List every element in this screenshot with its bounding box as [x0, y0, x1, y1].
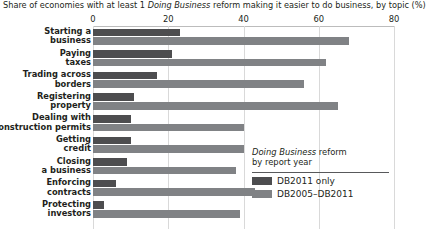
- bar-db2011-only: [93, 201, 104, 209]
- legend-title-line2: by report year: [252, 157, 312, 167]
- bar-db2011-only: [93, 158, 127, 166]
- bar-row: Dealing with construction permits: [0, 113, 418, 135]
- bar-db2011-only: [93, 137, 131, 145]
- bar-db2005-db2011: [93, 210, 240, 218]
- bar-db2005-db2011: [93, 145, 244, 153]
- legend-item: DB2011 only: [252, 176, 412, 187]
- bar-db2005-db2011: [93, 124, 244, 132]
- legend-swatch: [252, 177, 272, 185]
- bar-db2011-only: [93, 29, 180, 37]
- bar-db2005-db2011: [93, 59, 326, 67]
- category-label: Dealing with construction permits: [0, 113, 91, 132]
- chart-subtitle-before: Share of economies with at least 1: [3, 0, 148, 10]
- category-label: Starting a business: [0, 27, 91, 46]
- x-tick-label-20: 20: [163, 14, 174, 24]
- legend-items: DB2011 onlyDB2005–DB2011: [252, 176, 412, 200]
- bar-row: Protecting investors: [0, 200, 418, 222]
- bar-db2011-only: [93, 50, 172, 58]
- category-label: Trading across borders: [0, 70, 91, 89]
- bar-db2005-db2011: [93, 188, 255, 196]
- x-tick-label-60: 60: [313, 14, 324, 24]
- bar-row: Starting a business: [0, 27, 418, 49]
- bar-db2011-only: [93, 115, 131, 123]
- legend-title-italic: Doing Business: [252, 147, 316, 157]
- bar-row: Registering property: [0, 92, 418, 114]
- bar-db2005-db2011: [93, 102, 338, 110]
- bar-row: Trading across borders: [0, 70, 418, 92]
- bar-db2011-only: [93, 180, 116, 188]
- legend-title: Doing Business reform by report year: [252, 147, 412, 168]
- chart-legend: Doing Business reform by report year DB2…: [252, 147, 412, 200]
- x-tick-label-80: 80: [389, 14, 400, 24]
- category-label: Enforcing contracts: [0, 178, 91, 197]
- bar-db2005-db2011: [93, 80, 304, 88]
- x-tick-label-40: 40: [238, 14, 249, 24]
- chart-subtitle-italic: Doing Business: [148, 0, 211, 10]
- legend-title-rest: reform: [316, 147, 347, 157]
- bar-db2011-only: [93, 72, 157, 80]
- bar-row: Paying taxes: [0, 49, 418, 71]
- category-label: Paying taxes: [0, 49, 91, 68]
- category-label: Getting credit: [0, 135, 91, 154]
- legend-swatch: [252, 190, 272, 198]
- category-label: Registering property: [0, 92, 91, 111]
- category-label: Protecting investors: [0, 200, 91, 219]
- bar-db2005-db2011: [93, 167, 236, 175]
- bar-db2005-db2011: [93, 37, 349, 45]
- plot-area: 020406080 Starting a businessPaying taxe…: [0, 14, 418, 230]
- bar-db2011-only: [93, 93, 134, 101]
- legend-label: DB2011 only: [277, 176, 335, 187]
- category-label: Closing a business: [0, 157, 91, 176]
- chart-subtitle-after: reform making it easier to do business, …: [210, 0, 425, 10]
- legend-item: DB2005–DB2011: [252, 189, 412, 200]
- chart-subtitle: Share of economies with at least 1 Doing…: [3, 0, 426, 11]
- legend-label: DB2005–DB2011: [277, 189, 354, 200]
- legend-divider: [252, 172, 389, 173]
- x-tick-label-0: 0: [90, 14, 95, 24]
